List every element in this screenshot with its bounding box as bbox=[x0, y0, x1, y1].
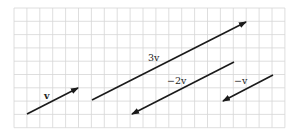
vector-v-label: v bbox=[43, 90, 50, 101]
vector-negv-label: −v bbox=[234, 75, 248, 86]
grid bbox=[14, 8, 285, 128]
vector-3v-label: 3v bbox=[148, 52, 160, 63]
vectors: v 3v −2v −v bbox=[27, 22, 273, 114]
vector-neg2v-label: −2v bbox=[167, 75, 187, 86]
vector-diagram: v 3v −2v −v bbox=[0, 0, 296, 137]
